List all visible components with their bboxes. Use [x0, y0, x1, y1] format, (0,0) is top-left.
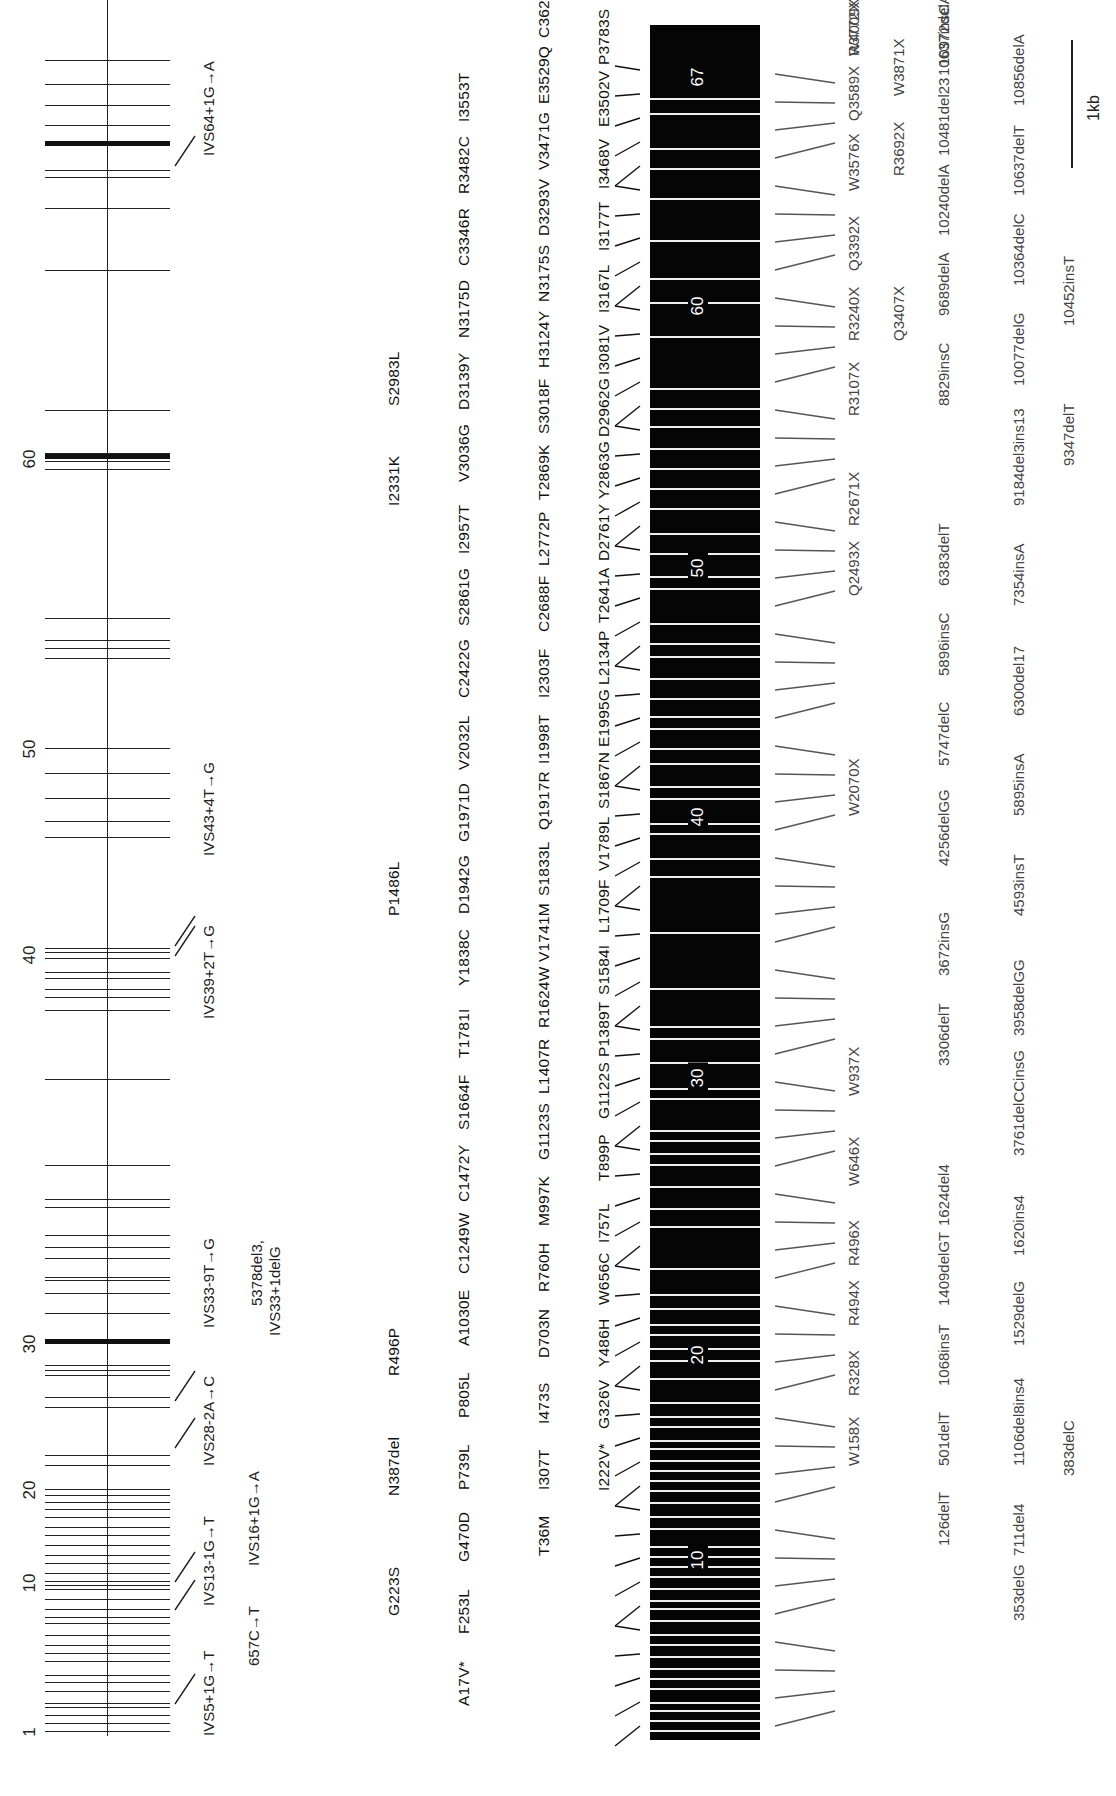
missense-mutation-label: T2869K [535, 445, 553, 501]
missense-mutation-label: R1624W [535, 966, 553, 1028]
frameshift-mutation-label: 7354insA [1010, 543, 1027, 606]
missense-mutation-label: P1389T [595, 1002, 613, 1058]
frameshift-mutation-label: 3958delGG [1010, 959, 1027, 1036]
nonsense-mutation-label: W3576X [845, 133, 862, 191]
missense-mutation-label: T2641A [595, 568, 613, 624]
frameshift-mutation-label: 1529delG [1010, 1281, 1027, 1346]
nonsense-mutation-label: Q2493X [845, 541, 862, 596]
missense-mutation-label: S1664F [455, 1075, 473, 1131]
missense-mutation-label: P805L [455, 1372, 473, 1418]
missense-mutation-label: L1709F [595, 879, 613, 933]
missense-mutation-label: D703N [535, 1309, 553, 1358]
frameshift-mutation-label: 1624del4 [935, 1164, 952, 1226]
missense-mutation-label: T899P [595, 1134, 613, 1181]
mutation-map-figure: 1 10 20 30 40 50 60 IVS5+1G→T IVS13-1G→T… [0, 0, 1116, 1796]
missense-mutation-label: S1584I [595, 945, 613, 995]
nonsense-mutation-label: W4009X [845, 0, 862, 56]
missense-mutation-label: I2331K [385, 456, 403, 506]
missense-mutation-label: H3124Y [535, 311, 553, 368]
missense-mutation-label: L2134P [595, 630, 613, 685]
frameshift-mutation-label: 383delC [1060, 1420, 1077, 1476]
missense-mutation-label: I3081V [595, 325, 613, 375]
nonsense-mutation-label: Q3407X [890, 286, 907, 341]
frameshift-mutation-label: 5895insA [1010, 753, 1027, 816]
frameshift-mutation-label: 711del4 [1010, 1504, 1027, 1556]
missense-mutation-label: I757L [595, 1203, 613, 1243]
missense-mutation-label: V2032L [455, 715, 473, 770]
missense-mutation-label: Y2863G [595, 441, 613, 499]
frameshift-mutation-label: 5747delC [935, 702, 952, 766]
missense-mutation-label: P3783S [595, 9, 613, 65]
missense-mutation-label: V1789L [595, 816, 613, 871]
frameshift-mutation-label: 10637delT [1010, 125, 1027, 196]
missense-mutation-label: I2303F [535, 649, 553, 698]
missense-mutation-label: A1030E [455, 1290, 473, 1346]
frameshift-mutation-label: 10077delG [1010, 313, 1027, 386]
missense-mutation-label: I1998T [535, 715, 553, 764]
missense-mutation-label: G1123S [535, 1103, 553, 1160]
missense-mutation-label: S1833L [535, 841, 553, 896]
frameshift-mutation-label: 1620ins4 [1010, 1195, 1027, 1256]
missense-mutation-label: P1486L [385, 861, 403, 916]
nonsense-mutation-label: Q3589X [845, 66, 862, 121]
frameshift-mutation-label: 3761delCCinsG [1010, 1050, 1027, 1156]
missense-mutation-label: W656C [595, 1252, 613, 1305]
nonsense-mutation-label: Q3392X [845, 216, 862, 271]
frameshift-mutation-label: 10856delA [1010, 34, 1027, 106]
missense-mutation-label: I222V* [595, 1443, 613, 1491]
frameshift-mutation-label: 1409delGT [935, 1232, 952, 1306]
scale-bar [1071, 40, 1073, 168]
missense-mutation-label: C1472Y [455, 1145, 473, 1202]
frameshift-mutation-label: 8829insC [935, 343, 952, 406]
nonsense-mutation-label: W158X [845, 1417, 862, 1466]
missense-mutation-label: C3346R [455, 208, 473, 266]
missense-mutation-label: R496P [385, 1328, 403, 1376]
missense-mutation-label: V1741M [535, 903, 553, 962]
missense-mutation-label: G223S [385, 1567, 403, 1616]
missense-mutation-label: C3622Y [535, 0, 553, 38]
missense-mutation-label: G1971D [455, 783, 473, 842]
missense-mutation-label: G1122S [595, 1062, 613, 1119]
missense-mutation-label: R760H [535, 1243, 553, 1292]
missense-mutation-label: G326V [595, 1380, 613, 1429]
frameshift-mutation-label: 6300del17 [1010, 646, 1027, 716]
frameshift-mutation-label: 9689delA [935, 253, 952, 316]
frameshift-mutation-label: 3672insG [935, 912, 952, 976]
nonsense-mutation-label: W3871X [890, 38, 907, 96]
missense-mutation-label: D3139Y [455, 353, 473, 410]
frameshift-mutation-label: 10972delAT [935, 0, 952, 66]
missense-mutation-label: E3502V [595, 71, 613, 127]
nonsense-mutation-label: R2671X [845, 472, 862, 526]
nonsense-mutation-label: R494X [845, 1280, 862, 1326]
missense-mutation-label: N3175D [455, 280, 473, 338]
missense-mutation-label: I2957T [455, 505, 473, 554]
missense-mutation-label: P739L [455, 1444, 473, 1490]
missense-mutation-label: D1942G [455, 855, 473, 914]
frameshift-mutation-label: 3306delT [935, 1003, 952, 1066]
missense-mutation-label: E3529Q [535, 46, 553, 104]
missense-mutation-label: S1867N [595, 752, 613, 809]
missense-mutation-label: D2962G [595, 378, 613, 437]
missense-mutation-label: A17V* [455, 1661, 473, 1706]
missense-mutation-label: M997K [535, 1176, 553, 1226]
frameshift-mutation-label: 1106del8ins4 [1010, 1378, 1027, 1466]
missense-mutation-label: I3468V [595, 139, 613, 189]
missense-mutation-label: C1249W [455, 1212, 473, 1274]
missense-mutation-label: T36M [535, 1516, 553, 1556]
missense-mutation-label: N3175S [535, 245, 553, 302]
missense-mutation-label: I3177T [595, 202, 613, 251]
missense-mutation-label: S3018F [535, 379, 553, 435]
frameshift-mutation-label: 4593insT [1010, 854, 1027, 916]
frameshift-mutation-label: 5896insC [935, 613, 952, 676]
missense-mutation-label: N387del [385, 1437, 403, 1496]
missense-mutation-label: F253L [455, 1589, 473, 1634]
missense-mutation-label: D2761Y [595, 504, 613, 561]
nonsense-mutation-label: W2070X [845, 758, 862, 816]
missense-mutation-label: T1781I [455, 1009, 473, 1058]
frameshift-mutation-label: 10364delC [1010, 213, 1027, 286]
frameshift-mutation-label: 9184del3ins13 [1010, 408, 1027, 506]
missense-mutation-label: Y1838C [455, 929, 473, 986]
missense-mutation-label: G470D [455, 1512, 473, 1562]
nonsense-mutation-label: R496X [845, 1220, 862, 1266]
nonsense-mutation-label: R328X [845, 1350, 862, 1396]
